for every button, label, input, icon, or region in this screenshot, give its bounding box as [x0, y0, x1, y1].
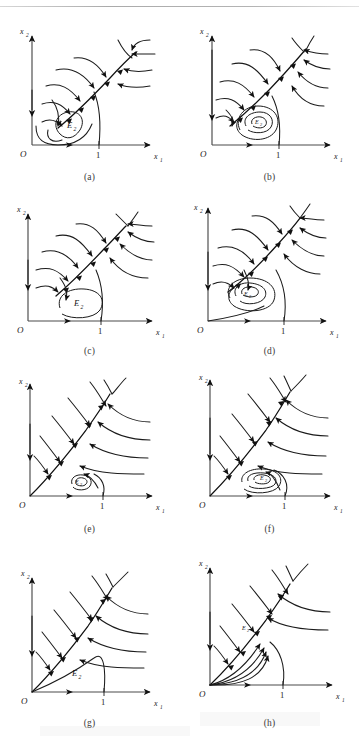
panel-b: O 1 x 1 x 2: [180, 14, 359, 196]
tick-label-c: 1: [98, 326, 102, 336]
x-axis-sublabel-e: 1: [162, 508, 165, 514]
panel-d: O 1 x 1 x 2: [180, 196, 359, 378]
separatrix-arrowheads-c: [63, 237, 120, 294]
boundary-orbit-g: [32, 656, 105, 692]
axes-a: [32, 36, 150, 149]
origin-separatrix-d: [208, 306, 264, 321]
separatrix-arrowheads-b: [237, 64, 296, 124]
axis-trajectory-d: [276, 270, 285, 321]
axis-trajectory-h: [270, 642, 284, 685]
x-axis-label-h: x: [335, 692, 340, 701]
panel-caption-a: (a): [0, 172, 179, 182]
equilibrium-label-e: E: [74, 479, 79, 485]
panel-caption-f: (f): [180, 524, 359, 534]
axes-b: [212, 36, 330, 149]
panel-h: O 1 x 1 x 2: [180, 550, 359, 732]
origin-label-e: O: [19, 500, 26, 510]
y-axis-label-a: x: [19, 27, 24, 36]
equilibrium-label-h: E: [241, 625, 246, 631]
tick-label-e: 1: [100, 501, 104, 511]
equilibrium-label-f: E: [259, 475, 264, 481]
equilibrium-orbit-c: [59, 278, 102, 318]
x-axis-sublabel-f: 1: [340, 508, 343, 514]
axes-c: [28, 214, 152, 325]
trajectories-right-d: [284, 204, 326, 274]
separatrix-arrowheads-a: [66, 70, 123, 125]
equilibrium-sublabel-d: 2: [249, 294, 251, 299]
equilibrium-sublabel-b: 2: [260, 122, 262, 127]
equilibrium-label-a: E: [66, 120, 73, 130]
tick-label-a: 1: [96, 150, 100, 160]
y-axis-sublabel-d: 2: [200, 208, 203, 214]
tick-label-g: 1: [101, 697, 105, 707]
figure-panel-grid: O 1 x 1 x 2: [0, 14, 359, 742]
y-axis-label-d: x: [193, 203, 198, 212]
panel-caption-c: (c): [0, 346, 179, 356]
y-axis-sublabel-a: 2: [26, 32, 29, 38]
axes-f: [210, 380, 330, 500]
origin-label-b: O: [200, 149, 207, 159]
x-axis-sublabel-b: 1: [340, 157, 343, 163]
x-axis-label-b: x: [333, 152, 338, 161]
trajectories-right-c: [110, 212, 154, 278]
tick-label-d: 1: [281, 326, 285, 336]
axes-h: [210, 568, 332, 689]
y-axis-label-c: x: [16, 205, 21, 214]
y-axis-label-b: x: [199, 27, 204, 36]
tick-label-b: 1: [276, 150, 280, 160]
x-axis-sublabel-g: 1: [160, 704, 163, 710]
axis-trajectory-b: [272, 96, 280, 145]
equilibrium-sublabel-f: 2: [265, 478, 267, 483]
x-axis-sublabel-h: 1: [342, 697, 345, 703]
separatrix-h: [210, 584, 290, 685]
equilibrium-sublabel-a: 2: [74, 126, 77, 132]
axes-g: [32, 578, 150, 696]
scan-artifact-line: [0, 6, 359, 7]
y-axis-label-h: x: [198, 559, 203, 568]
trajectories-left-e: [34, 382, 106, 474]
separatrix-c: [56, 226, 126, 296]
y-axis-sublabel-h: 2: [205, 564, 208, 570]
panel-caption-e: (e): [0, 524, 179, 534]
x-axis-sublabel-a: 1: [160, 157, 163, 163]
y-axis-sublabel-b: 2: [206, 32, 209, 38]
axis-trajectory-a: [94, 92, 100, 145]
trajectories-right-h: [268, 564, 330, 630]
x-axis-label-c: x: [155, 328, 160, 337]
equilibrium-sublabel-e: 2: [80, 482, 82, 487]
origin-label-a: O: [20, 149, 27, 159]
tick-label-h: 1: [280, 690, 284, 700]
panel-e: O 1 x 1 x 2: [0, 374, 179, 556]
trajectories-left-f: [214, 378, 286, 474]
tick-label-f: 1: [282, 501, 286, 511]
equilibrium-label-g: E: [71, 668, 78, 678]
origin-label-d: O: [197, 325, 204, 335]
panel-f: O 1 x 1 x 2: [180, 374, 359, 556]
y-axis-sublabel-c: 2: [23, 210, 26, 216]
x-axis-label-e: x: [155, 503, 160, 512]
origin-label-h: O: [199, 689, 206, 699]
panel-c: O 1 x 1 x 2: [0, 196, 179, 378]
y-axis-sublabel-e: 2: [25, 382, 28, 388]
panel-a: O 1 x 1 x 2: [0, 14, 179, 196]
panel-caption-g: (g): [0, 718, 179, 728]
equilibrium-label-d: E: [243, 291, 248, 297]
panel-caption-d: (d): [180, 346, 359, 356]
y-axis-label-g: x: [20, 569, 25, 578]
y-axis-sublabel-g: 2: [27, 574, 30, 580]
y-axis-label-e: x: [18, 377, 23, 386]
separatrix-f: [210, 392, 290, 496]
panel-g: O 1 x 1 x 2: [0, 550, 179, 732]
x-axis-sublabel-d: 1: [336, 333, 339, 339]
lower-loop-a: [36, 124, 92, 145]
x-axis-sublabel-c: 1: [162, 333, 165, 339]
x-axis-label-f: x: [333, 503, 338, 512]
y-axis-label-f: x: [198, 374, 203, 382]
x-axis-label-g: x: [153, 699, 158, 708]
equilibrium-sublabel-g: 2: [79, 674, 82, 680]
origin-label-g: O: [21, 696, 28, 706]
origin-label-f: O: [199, 500, 206, 510]
separatrix-e: [30, 394, 110, 496]
equilibrium-sublabel-h: 2: [247, 628, 249, 633]
y-axis-sublabel-f: 2: [205, 378, 208, 384]
